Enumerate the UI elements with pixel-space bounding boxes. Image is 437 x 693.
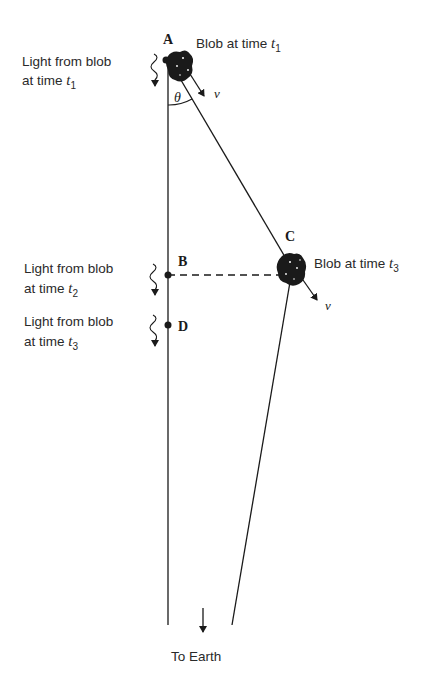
velocity-arrow-t1	[190, 74, 204, 96]
line-of-sight-c	[232, 282, 290, 625]
point-d-label: D	[178, 319, 188, 334]
blob-t3-icon	[277, 253, 306, 286]
light-wave-t2-icon	[150, 264, 157, 295]
superluminal-motion-diagram: θ A v Blob at time t1 Light from blob at…	[0, 0, 437, 693]
light-t3-label-line2: at time t3	[24, 333, 78, 352]
point-b-dot	[165, 272, 172, 279]
light-t1-label-line1: Light from blob	[22, 54, 111, 69]
velocity-arrow-t3	[303, 280, 317, 300]
light-t3-label-line1: Light from blob	[24, 314, 113, 329]
point-b-label: B	[178, 254, 187, 269]
light-t2-label-line1: Light from blob	[24, 261, 113, 276]
velocity-label-t1: v	[214, 86, 220, 101]
point-d-dot	[165, 322, 172, 329]
point-c-label: C	[285, 229, 295, 244]
blob-t3-label: Blob at time t3	[314, 255, 399, 274]
light-t2-label-line2: at time t2	[24, 280, 78, 299]
light-wave-t3-icon	[150, 315, 157, 346]
blob-trajectory-line	[168, 58, 288, 262]
point-a-label: A	[163, 32, 174, 47]
light-t1-label-line2: at time t1	[22, 72, 76, 91]
angle-theta-label: θ	[174, 90, 181, 105]
light-wave-t1-icon	[151, 54, 157, 86]
to-earth-label: To Earth	[171, 649, 221, 664]
blob-t1-label: Blob at time t1	[196, 35, 281, 54]
blob-t1-icon	[166, 50, 193, 81]
velocity-label-t3: v	[325, 298, 331, 313]
